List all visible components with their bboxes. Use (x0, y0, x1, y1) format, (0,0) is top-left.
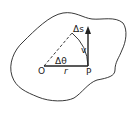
label-point: P (86, 67, 92, 77)
label-v: v (81, 45, 87, 55)
body-outline (11, 13, 126, 101)
label-radius: r (64, 66, 69, 76)
label-origin: O (38, 66, 45, 76)
rigid-body-diagram: Δs v Δθ O r P (0, 0, 133, 121)
arrowhead-icon (85, 26, 91, 34)
label-delta-s: Δs (73, 24, 84, 34)
label-delta-theta: Δθ (55, 56, 67, 66)
